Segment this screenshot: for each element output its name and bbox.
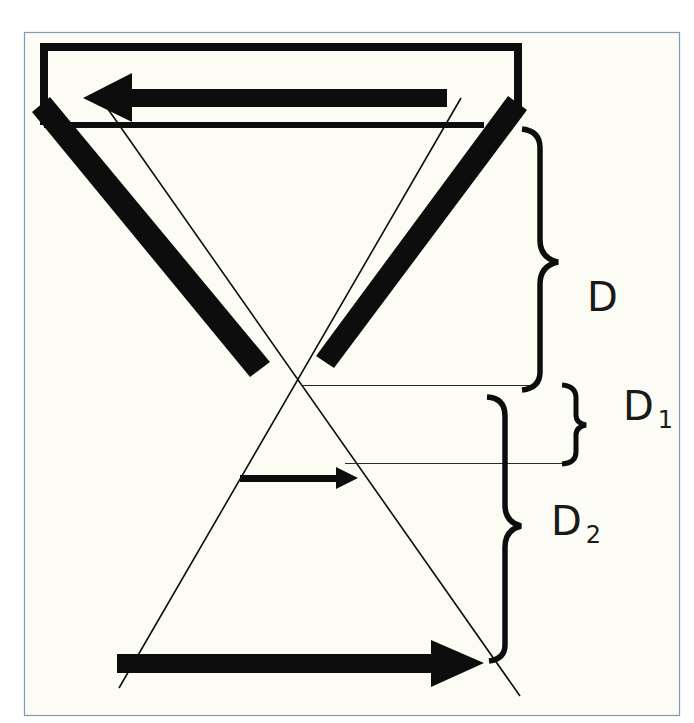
top-baseline xyxy=(44,122,484,128)
diagram-frame xyxy=(25,33,680,716)
optics-diagram: D D1 D2 xyxy=(0,0,694,723)
label-d: D xyxy=(587,274,618,320)
